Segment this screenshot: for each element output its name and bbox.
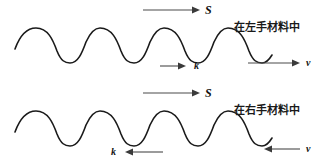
left-handed-material-caption: 在左手材料中	[234, 22, 300, 33]
physics-wave-diagram: S k v S k v 在左手材料中 在右手材料中	[0, 0, 319, 166]
bottom-v-vector-arrow	[264, 146, 300, 153]
bottom-k-vector-arrow	[125, 149, 163, 156]
top-s-vector-arrow	[143, 7, 200, 14]
top-v-label: v	[306, 58, 310, 68]
bottom-k-label: k	[111, 147, 116, 157]
bottom-s-vector-arrow	[143, 90, 200, 97]
top-k-label: k	[194, 61, 199, 71]
right-handed-material-caption: 在右手材料中	[234, 105, 300, 116]
bottom-s-label: S	[205, 87, 212, 99]
bottom-v-label: v	[306, 144, 310, 154]
top-k-vector-arrow	[160, 63, 186, 70]
top-s-label: S	[205, 4, 212, 16]
